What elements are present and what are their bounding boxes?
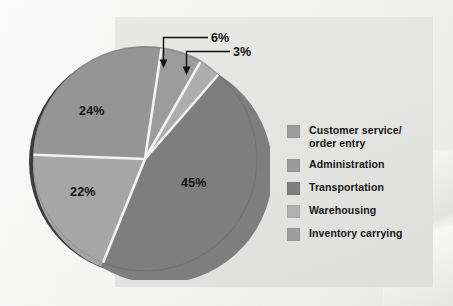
slice-value-label-warehousing: 22% <box>70 185 96 199</box>
legend-item-transportation: Transportation <box>287 181 433 195</box>
callout-label-3-percent: 3% <box>233 45 251 59</box>
pie-chart-graphic <box>22 46 270 280</box>
pie-slices <box>33 46 270 280</box>
legend-item-inventory-carrying: Inventory carrying <box>287 227 433 241</box>
pie-chart-screenshot: 45% 24% 22% 6% 3% Customer service/ orde… <box>0 0 453 306</box>
pie-svg <box>22 46 270 280</box>
legend-swatch-inventory-carrying <box>287 228 300 241</box>
legend-item-warehousing: Warehousing <box>287 204 433 218</box>
legend-label-administration: Administration <box>309 158 384 171</box>
slice-value-label-transportation: 45% <box>181 176 207 190</box>
legend-swatch-warehousing <box>287 205 300 218</box>
callout-label-6-percent: 6% <box>211 31 229 45</box>
pie-slice-inventory-carrying <box>33 46 161 159</box>
legend-item-administration: Administration <box>287 158 433 172</box>
legend-label-customer-service: Customer service/ order entry <box>309 124 402 149</box>
legend-label-line-1: Customer service/ <box>309 124 402 137</box>
slice-value-label-inventory-carrying: 24% <box>79 104 105 118</box>
legend-swatch-transportation <box>287 182 300 195</box>
legend-swatch-customer-service <box>287 125 300 138</box>
legend-item-customer-service: Customer service/ order entry <box>287 124 433 149</box>
legend-label-line-2: order entry <box>309 137 402 150</box>
legend-swatch-administration <box>287 159 300 172</box>
legend-label-warehousing: Warehousing <box>309 204 376 217</box>
legend-label-transportation: Transportation <box>309 181 384 194</box>
legend-label-inventory-carrying: Inventory carrying <box>309 227 402 240</box>
chart-legend: Customer service/ order entry Administra… <box>287 124 433 241</box>
